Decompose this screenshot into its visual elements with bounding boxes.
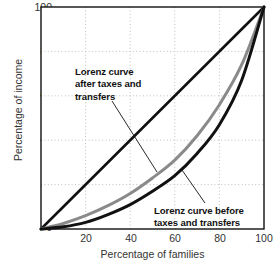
annotation-before-line2: taxes and transfers — [154, 217, 269, 229]
annotation-after-line1: Lorenz curve — [75, 66, 180, 78]
annotation-after-line2: after taxes and — [75, 78, 180, 90]
annotation-after-taxes: Lorenz curve after taxes and transfers — [75, 66, 180, 103]
annotation-before-taxes: Lorenz curve before taxes and transfers — [154, 205, 269, 230]
annotation-after-line3: transfers — [75, 91, 180, 103]
annotation-before-line1: Lorenz curve before — [154, 205, 269, 217]
lorenz-curve-figure: Percentage of income 100 80 60 40 20 0 2… — [0, 0, 276, 268]
